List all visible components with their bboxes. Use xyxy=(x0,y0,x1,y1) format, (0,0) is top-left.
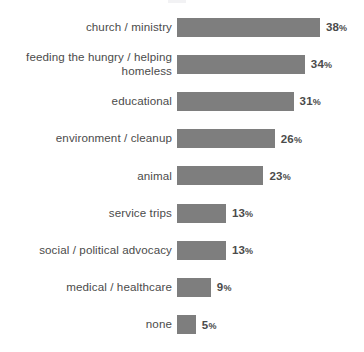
bar xyxy=(177,278,211,297)
chart-row: animal23% xyxy=(0,159,364,193)
bar-zone: 34% xyxy=(177,47,364,81)
bar-zone: 31% xyxy=(177,84,364,118)
bar-zone: 9% xyxy=(177,270,364,304)
category-label: social / political advocacy xyxy=(0,243,177,258)
bar-value-label: 13% xyxy=(232,244,253,256)
chart-row: social / political advocacy13% xyxy=(0,233,364,267)
bar-value-label: 5% xyxy=(202,319,217,331)
bar xyxy=(177,166,263,185)
bar-zone: 5% xyxy=(177,308,364,342)
chart-row: educational31% xyxy=(0,84,364,118)
category-label: medical / healthcare xyxy=(0,280,177,295)
bar-zone: 26% xyxy=(177,122,364,156)
cropped-title-fragment xyxy=(168,0,186,3)
bar-zone: 13% xyxy=(177,196,364,230)
bar-value-label: 31% xyxy=(300,95,321,107)
chart-row: environment / cleanup26% xyxy=(0,122,364,156)
bar-value-label: 38% xyxy=(326,21,347,33)
bar-zone: 13% xyxy=(177,233,364,267)
category-label: none xyxy=(0,317,177,332)
bar xyxy=(177,315,196,334)
bar-value-label: 13% xyxy=(232,207,253,219)
category-label: service trips xyxy=(0,206,177,221)
chart-row: service trips13% xyxy=(0,196,364,230)
bar xyxy=(177,18,320,37)
bar xyxy=(177,241,226,260)
bar-zone: 38% xyxy=(177,10,364,44)
chart-row: none5% xyxy=(0,308,364,342)
category-label: environment / cleanup xyxy=(0,131,177,146)
bar xyxy=(177,129,275,148)
bar-value-label: 34% xyxy=(311,58,332,70)
category-label: feeding the hungry / helping homeless xyxy=(0,50,177,79)
chart-row: church / ministry38% xyxy=(0,10,364,44)
category-label: animal xyxy=(0,169,177,184)
chart-row: feeding the hungry / helping homeless34% xyxy=(0,47,364,81)
category-label: educational xyxy=(0,94,177,109)
bar-zone: 23% xyxy=(177,159,364,193)
bar-value-label: 26% xyxy=(281,133,302,145)
category-label: church / ministry xyxy=(0,20,177,35)
bar xyxy=(177,55,305,74)
bar-value-label: 23% xyxy=(269,170,290,182)
chart-row: medical / healthcare9% xyxy=(0,270,364,304)
bar xyxy=(177,204,226,223)
horizontal-bar-chart: church / ministry38%feeding the hungry /… xyxy=(0,0,364,352)
bar xyxy=(177,92,294,111)
bar-value-label: 9% xyxy=(217,281,232,293)
